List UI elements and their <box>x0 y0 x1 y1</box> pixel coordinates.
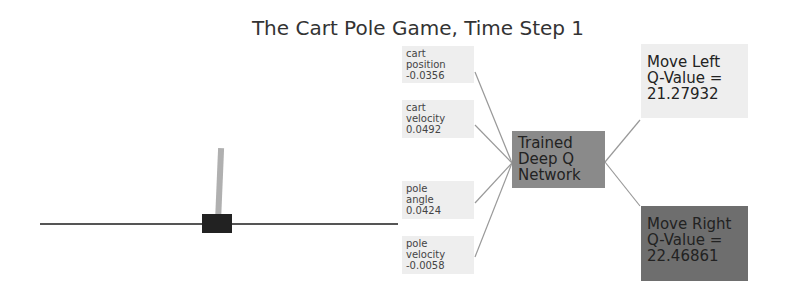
output-move-right: Move Right Q-Value = 22.46861 <box>641 206 748 281</box>
input-label-line1: cart <box>406 102 470 113</box>
input-value: -0.0356 <box>406 70 470 81</box>
input-cart-position: cart position -0.0356 <box>402 46 474 83</box>
input-pole-angle: pole angle 0.0424 <box>402 181 474 219</box>
input-value: 0.0424 <box>406 205 470 216</box>
output-label-line1: Move Left <box>647 54 742 70</box>
output-label-line2: Q-Value = <box>647 70 742 86</box>
output-label-line2: Q-Value = <box>647 232 742 248</box>
input-pole-velocity: pole velocity -0.0058 <box>402 236 474 274</box>
deep-q-network-box: Trained Deep Q Network <box>512 131 605 188</box>
input-cart-velocity: cart velocity 0.0492 <box>402 100 474 138</box>
network-label-line2: Deep Q <box>518 151 599 167</box>
network-label-line3: Network <box>518 167 599 183</box>
input-label-line2: position <box>406 59 470 70</box>
input-label-line1: pole <box>406 183 470 194</box>
input-label-line2: angle <box>406 194 470 205</box>
input-label-line1: pole <box>406 238 470 249</box>
output-move-left: Move Left Q-Value = 21.27932 <box>641 44 748 118</box>
output-q-value: 21.27932 <box>647 86 742 102</box>
input-label-line1: cart <box>406 48 470 59</box>
input-value: 0.0492 <box>406 124 470 135</box>
input-label-line2: velocity <box>406 113 470 124</box>
output-label-line1: Move Right <box>647 216 742 232</box>
network-label-line1: Trained <box>518 135 599 151</box>
output-q-value: 22.46861 <box>647 248 742 264</box>
input-label-line2: velocity <box>406 249 470 260</box>
input-value: -0.0058 <box>406 260 470 271</box>
